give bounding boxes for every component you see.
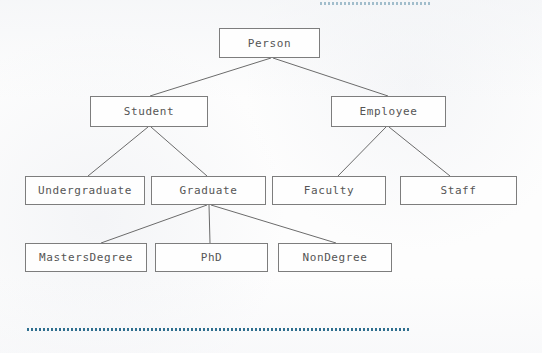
generalization-edge-graduate-to-phd <box>209 205 210 243</box>
generalization-edge-person-to-student <box>150 58 271 96</box>
diagram-canvas: PersonStudentEmployeeUndergraduateGradua… <box>0 0 542 353</box>
bottom-dotted-rule <box>27 327 409 331</box>
class-node-label: Staff <box>440 184 476 197</box>
class-node-undergraduate[interactable]: Undergraduate <box>25 176 145 205</box>
class-node-staff[interactable]: Staff <box>400 176 517 205</box>
class-node-label: Person <box>248 37 291 50</box>
class-node-mastersdegree[interactable]: MastersDegree <box>25 243 147 272</box>
generalization-edge-graduate-to-nondegree <box>211 205 336 243</box>
class-node-student[interactable]: Student <box>90 96 208 127</box>
class-node-graduate[interactable]: Graduate <box>151 176 266 205</box>
top-dotted-rule <box>320 1 432 5</box>
generalization-edge-person-to-employee <box>273 58 388 96</box>
class-node-label: Student <box>124 105 175 118</box>
generalization-edge-graduate-to-mastersdegree <box>101 205 207 243</box>
class-node-label: NonDegree <box>302 251 367 264</box>
generalization-edge-employee-to-faculty <box>338 127 386 176</box>
class-node-label: Graduate <box>180 184 238 197</box>
generalization-edge-student-to-undergraduate <box>88 127 148 176</box>
class-node-employee[interactable]: Employee <box>331 96 446 127</box>
generalization-edge-employee-to-staff <box>389 127 450 176</box>
class-node-label: Employee <box>360 105 418 118</box>
class-node-faculty[interactable]: Faculty <box>272 176 386 205</box>
class-node-person[interactable]: Person <box>219 28 320 58</box>
generalization-edge-student-to-graduate <box>151 127 207 176</box>
class-node-phd[interactable]: PhD <box>155 243 268 272</box>
class-node-label: PhD <box>201 251 223 264</box>
class-node-label: MastersDegree <box>39 251 133 264</box>
class-node-label: Undergraduate <box>38 184 132 197</box>
class-node-nondegree[interactable]: NonDegree <box>278 243 392 272</box>
class-node-label: Faculty <box>304 184 355 197</box>
